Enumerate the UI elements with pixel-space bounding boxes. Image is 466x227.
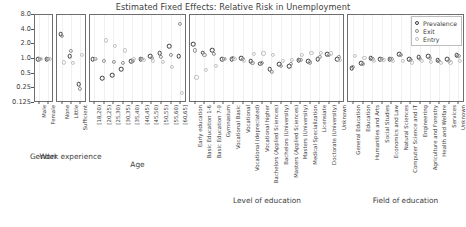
data-point	[242, 59, 246, 63]
x-tick-mark	[113, 101, 114, 104]
grid-line	[204, 15, 205, 101]
x-tick-label: [35,40)	[134, 105, 140, 125]
data-point	[361, 62, 365, 66]
x-tick-mark	[391, 101, 392, 104]
data-point	[456, 54, 460, 58]
y-tick-label: 2.0	[21, 39, 32, 47]
data-point	[180, 91, 184, 95]
data-point	[233, 57, 237, 61]
x-tick-label: Masters (Applied Sciences)	[293, 105, 299, 178]
data-point	[80, 53, 84, 57]
data-point	[176, 54, 181, 59]
panel-level-of-education: Early educationBasic Education 1-6Basic …	[189, 14, 345, 102]
x-tick-label: None	[64, 105, 70, 119]
data-point	[48, 57, 52, 61]
x-tick-label: Licensiate	[321, 105, 327, 132]
x-tick-mark	[381, 101, 382, 104]
data-point	[410, 60, 414, 64]
panel-gender: MaleFemale	[34, 14, 53, 102]
data-point	[338, 58, 342, 62]
x-tick-label: Vocational Basic	[235, 105, 241, 149]
data-point	[204, 68, 208, 72]
data-point	[271, 53, 275, 57]
y-axis: 8.04.02.01.00.50.250.125	[0, 14, 34, 102]
legend-item-exit[interactable]: Exit	[415, 27, 457, 35]
data-point	[261, 51, 265, 55]
x-tick-mark	[94, 101, 95, 104]
x-tick-label: [18,20)	[96, 105, 102, 125]
data-point	[401, 59, 405, 63]
x-tick-mark	[271, 101, 272, 104]
x-tick-mark	[448, 101, 449, 104]
y-tick-label: 1.0	[21, 54, 32, 62]
grid-line	[171, 15, 172, 101]
data-point	[420, 59, 424, 63]
data-point	[213, 64, 217, 68]
grid-line	[310, 15, 311, 101]
data-point	[60, 34, 64, 38]
data-point	[202, 53, 206, 57]
data-point	[94, 57, 98, 61]
data-point	[362, 56, 366, 60]
data-point	[279, 64, 283, 68]
x-tick-label: Gymnasium	[225, 105, 231, 137]
grid-line	[214, 15, 215, 101]
x-tick-label: Natural Sciences	[403, 105, 409, 150]
panel-container: MaleFemaleNoneLittleSufficient[18,20)[20…	[34, 14, 464, 102]
data-point	[458, 59, 462, 63]
data-point	[260, 61, 264, 65]
x-tick-mark	[232, 101, 233, 104]
x-tick-label: [50,55)	[163, 105, 169, 125]
x-tick-mark	[362, 101, 363, 104]
data-point	[113, 44, 117, 48]
data-point	[448, 60, 452, 64]
x-tick-mark	[61, 101, 62, 104]
legend-marker-icon	[415, 21, 419, 25]
x-tick-mark	[141, 101, 142, 104]
grid-line	[281, 15, 282, 101]
x-tick-mark	[122, 101, 123, 104]
y-tick-label: 0.25	[16, 83, 31, 91]
panel-title-level-of-education: Level of education	[233, 196, 301, 205]
x-tick-mark	[223, 101, 224, 104]
x-tick-label: Bachelors (Applied Sciences)	[273, 105, 279, 183]
data-point	[132, 57, 136, 61]
x-tick-mark	[429, 101, 430, 104]
x-tick-label: [30,35)	[125, 105, 131, 125]
legend: PrevalenceExitEntry	[411, 16, 462, 46]
x-tick-mark	[71, 101, 72, 104]
grid-line	[252, 15, 253, 101]
data-point	[102, 59, 106, 63]
x-tick-label: Unknown	[341, 105, 347, 130]
data-point	[223, 57, 227, 61]
x-tick-label: Vocational higher	[264, 105, 270, 152]
data-point	[119, 67, 124, 72]
x-tick-mark	[309, 101, 310, 104]
x-tick-label: Early education	[197, 105, 203, 147]
grid-line	[104, 15, 105, 101]
legend-item-entry[interactable]: Entry	[415, 35, 457, 43]
data-point	[62, 60, 66, 64]
data-point	[353, 54, 357, 58]
x-tick-mark	[194, 101, 195, 104]
x-tick-mark	[458, 101, 459, 104]
panel-title-field-of-education: Field of education	[373, 196, 439, 205]
data-point	[123, 48, 127, 52]
data-point	[142, 58, 146, 62]
x-tick-label: Vocational	[245, 105, 251, 133]
data-point	[252, 52, 256, 56]
x-tick-label: Social Studies	[384, 105, 390, 143]
data-point	[381, 58, 385, 62]
x-tick-mark	[242, 101, 243, 104]
legend-item-prevalence[interactable]: Prevalence	[415, 19, 457, 27]
data-point	[159, 55, 163, 59]
x-tick-label: Economics and Law	[393, 105, 399, 158]
grid-line	[329, 15, 330, 101]
y-tick-label: 8.0	[21, 10, 32, 18]
x-tick-label: [60,65]	[182, 105, 188, 125]
data-point	[269, 70, 273, 74]
legend-label: Entry	[423, 36, 439, 43]
data-point	[317, 55, 321, 59]
chart-root: Estimated Fixed Effects: Relative Risk i…	[0, 0, 466, 227]
panel-work-experience: NoneLittleSufficient	[56, 14, 85, 102]
